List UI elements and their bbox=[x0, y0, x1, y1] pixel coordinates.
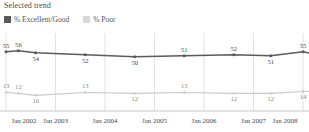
data-point[interactable] bbox=[270, 92, 272, 94]
legend-label-excellent-good: % Excellent/Good bbox=[14, 15, 69, 24]
data-point[interactable] bbox=[232, 53, 235, 56]
data-point[interactable] bbox=[5, 91, 7, 93]
data-label: 10 bbox=[32, 98, 39, 105]
data-point[interactable] bbox=[17, 49, 20, 52]
data-label: 56 bbox=[15, 42, 22, 49]
x-axis-tick-label: Jan 2008 bbox=[272, 117, 297, 125]
data-point[interactable] bbox=[5, 50, 8, 53]
x-axis: Jan 2002Jan 2003Jan 2004Jan 2005Jan 2006… bbox=[0, 117, 309, 131]
data-label: 12 bbox=[131, 96, 138, 103]
data-label: 13 bbox=[3, 83, 10, 90]
data-point[interactable] bbox=[302, 90, 304, 92]
data-label: 55 bbox=[300, 43, 307, 50]
x-axis-tick-label: Jan 2002 bbox=[11, 117, 36, 125]
data-point[interactable] bbox=[35, 94, 37, 96]
data-point[interactable] bbox=[134, 92, 136, 94]
x-axis-tick-label: Jan 2006 bbox=[191, 117, 216, 125]
legend-item-poor[interactable]: % Poor bbox=[83, 15, 115, 24]
legend-swatch-poor bbox=[83, 16, 90, 23]
data-point[interactable] bbox=[17, 92, 19, 94]
x-axis-tick-label: Jan 2007 bbox=[241, 117, 266, 125]
data-point[interactable] bbox=[84, 91, 86, 93]
data-label: 55 bbox=[3, 43, 10, 50]
data-label: 50 bbox=[131, 60, 138, 67]
legend-swatch-excellent-good bbox=[4, 16, 11, 23]
data-point[interactable] bbox=[183, 91, 185, 93]
series-line-excellent-good bbox=[6, 51, 309, 62]
legend-item-excellent-good[interactable]: % Excellent/Good bbox=[4, 15, 69, 24]
data-label: 54 bbox=[32, 56, 39, 63]
trend-chart: Selected trend % Excellent/Good % Poor 5… bbox=[0, 0, 309, 132]
series-line-poor bbox=[6, 89, 309, 96]
data-label: 51 bbox=[268, 59, 275, 66]
data-label: 13 bbox=[181, 83, 188, 90]
data-point[interactable] bbox=[233, 92, 235, 94]
data-point[interactable] bbox=[302, 50, 305, 53]
data-label: 51 bbox=[181, 47, 188, 54]
data-label: 12 bbox=[268, 96, 275, 103]
plot-svg bbox=[0, 33, 309, 115]
data-label: 12 bbox=[230, 96, 237, 103]
x-axis-tick-label: Jan 2004 bbox=[92, 117, 117, 125]
legend-label-poor: % Poor bbox=[93, 15, 115, 24]
data-label: 14 bbox=[300, 94, 307, 101]
data-label: 52 bbox=[82, 58, 89, 65]
data-label: 13 bbox=[82, 83, 89, 90]
chart-title: Selected trend bbox=[4, 1, 51, 10]
data-label: 12 bbox=[15, 84, 22, 91]
data-label: 52 bbox=[230, 46, 237, 53]
plot-area: 5556545250515251554513121013121312121417 bbox=[0, 33, 309, 115]
chart-legend: % Excellent/Good % Poor bbox=[4, 15, 116, 24]
x-axis-tick-label: Jan 2003 bbox=[43, 117, 68, 125]
data-point[interactable] bbox=[183, 54, 186, 57]
x-axis-tick-label: Jan 2005 bbox=[142, 117, 167, 125]
